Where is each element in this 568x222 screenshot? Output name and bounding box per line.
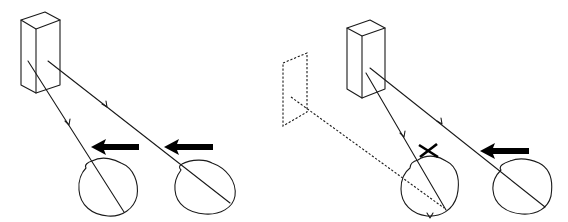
arrow-left-icon (164, 139, 213, 155)
eyeball-outline (401, 156, 458, 216)
dashed-ray-to-plane (291, 97, 444, 208)
diagram-svg (0, 0, 568, 222)
afterimage-plane-outline (283, 53, 307, 126)
arrow-left-icon (91, 139, 139, 155)
block-outline (347, 28, 385, 98)
block-top-face (21, 12, 60, 29)
light-rays (366, 68, 545, 210)
diagram-canvas (0, 0, 568, 222)
ray-to-eye-2 (370, 68, 545, 207)
block-outline (21, 20, 60, 93)
cross-x-icon (419, 144, 438, 157)
afterimage-plane (283, 53, 307, 126)
right-panel (283, 20, 552, 218)
eye-1 (401, 144, 458, 218)
ray-to-eye-1 (28, 61, 124, 212)
block-top-face (347, 20, 385, 36)
eye-2 (175, 160, 235, 214)
ray-to-eye-2 (48, 61, 230, 203)
left-panel (21, 12, 235, 216)
ray-direction-marker (102, 101, 107, 107)
arrow-left-icon (480, 143, 529, 159)
eye-mark (427, 213, 433, 218)
object-block (347, 20, 385, 98)
ray-direction-marker (437, 118, 442, 124)
light-rays (28, 61, 230, 212)
eyeball-outline (175, 160, 235, 214)
ray-to-eye-1 (366, 73, 446, 210)
